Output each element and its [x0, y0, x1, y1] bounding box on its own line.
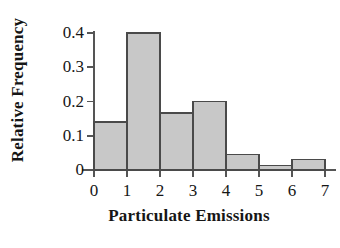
x-axis-title: Particulate Emissions [46, 206, 332, 226]
histogram-bar [94, 122, 127, 170]
x-axis-tick-label: 6 [280, 181, 304, 201]
histogram-bar [259, 165, 292, 170]
histogram-bar [226, 155, 259, 170]
histogram-bar [193, 102, 226, 171]
histogram-chart: Relative Frequency 00.10.20.30.4 0123456… [0, 0, 340, 248]
x-axis-tick-label: 1 [115, 181, 139, 201]
x-axis-tick-label: 0 [82, 181, 106, 201]
histogram-bar [160, 113, 193, 170]
y-axis-tick-label: 0.1 [38, 126, 84, 146]
x-axis-tick-label: 2 [148, 181, 172, 201]
x-axis-tick-label: 4 [214, 181, 238, 201]
y-axis-tick-label: 0 [38, 160, 84, 180]
histogram-bar [127, 33, 160, 170]
histogram-bar [292, 160, 325, 170]
x-axis-tick-label: 5 [247, 181, 271, 201]
bars-group [94, 33, 325, 170]
x-axis-tick-label: 3 [181, 181, 205, 201]
y-axis-tick-label: 0.3 [38, 57, 84, 77]
y-axis-tick-label: 0.2 [38, 92, 84, 112]
y-axis-tick-label: 0.4 [38, 23, 84, 43]
x-axis-tick-label: 7 [313, 181, 337, 201]
